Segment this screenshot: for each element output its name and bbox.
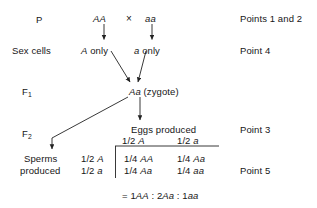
egg-column-header-2: 1/2 a	[177, 135, 199, 146]
monohybrid-cross-figure: P AA × aa Points 1 and 2 Sex cells A onl…	[0, 0, 317, 208]
punnett-cell-r2c2: 1/4 aa	[177, 165, 204, 176]
egg-column-1-allele: A	[138, 135, 144, 146]
ratio-term1-genotype: AA	[136, 190, 149, 201]
egg-column-2-allele: a	[193, 135, 198, 146]
ratio-term3-genotype: aa	[188, 190, 199, 201]
punnett-cell-r1c2-genotype: Aa	[193, 153, 205, 164]
sperms-produced-line2: produced	[20, 165, 60, 176]
arrow-gamete-A-to-zygote	[111, 51, 130, 82]
zygote-suffix: (zygote)	[141, 86, 179, 97]
egg-column-header-1: 1/2 A	[122, 135, 145, 146]
diagram-vector-layer	[0, 0, 317, 208]
zygote-label: Aa (zygote)	[129, 86, 179, 97]
sperm-row-1-fraction: 1/2	[81, 153, 97, 164]
annotation-points-1-and-2: Points 1 and 2	[240, 13, 302, 24]
eggs-produced-header: Eggs produced	[131, 124, 196, 135]
punnett-cell-r1c2-fraction: 1/4	[177, 153, 193, 164]
sperm-row-1-allele: A	[97, 153, 103, 164]
genotypic-ratio: = 1AA : 2Aa : 1aa	[122, 190, 198, 201]
punnett-cell-r1c1-genotype: AA	[140, 153, 153, 164]
gamete-right: a only	[134, 45, 160, 56]
annotation-point-4: Point 4	[240, 45, 270, 56]
parent-genotype-right: aa	[145, 13, 156, 24]
sperm-row-header-1: 1/2 A	[81, 153, 104, 164]
row-label-sex-cells: Sex cells	[12, 45, 51, 56]
row-label-f1-subscript: 1	[28, 91, 32, 98]
punnett-cell-r2c2-genotype: aa	[193, 165, 204, 176]
sperm-row-2-allele: a	[97, 165, 102, 176]
ratio-separator-1: :	[149, 190, 157, 201]
row-label-f1: F1	[22, 86, 32, 98]
gamete-left: A only	[81, 45, 108, 56]
ratio-term2-genotype: Aa	[162, 190, 174, 201]
punnett-cell-r2c2-fraction: 1/4	[177, 165, 193, 176]
arrow-zygote-to-sperms	[52, 97, 128, 149]
punnett-cell-r2c1-genotype: Aa	[140, 165, 152, 176]
sperms-produced-line1: Sperms	[24, 153, 57, 164]
punnett-cell-r1c2: 1/4 Aa	[177, 153, 205, 164]
row-label-f2: F2	[22, 128, 32, 140]
egg-column-1-fraction: 1/2	[122, 135, 138, 146]
row-label-f2-subscript: 2	[28, 133, 32, 140]
annotation-point-5: Point 5	[240, 165, 270, 176]
row-label-p: P	[36, 14, 42, 25]
cross-symbol: ×	[126, 13, 132, 24]
sperm-row-2-fraction: 1/2	[81, 165, 97, 176]
gamete-right-suffix: only	[139, 45, 160, 56]
punnett-cell-r2c1-fraction: 1/4	[124, 165, 140, 176]
annotation-point-3: Point 3	[240, 124, 270, 135]
parent-genotype-left: AA	[93, 13, 106, 24]
zygote-genotype: Aa	[129, 86, 141, 97]
egg-column-2-fraction: 1/2	[177, 135, 193, 146]
gamete-left-suffix: only	[87, 45, 108, 56]
punnett-cell-r2c1: 1/4 Aa	[124, 165, 152, 176]
punnett-cell-r1c1: 1/4 AA	[124, 153, 153, 164]
sperm-row-header-2: 1/2 a	[81, 165, 103, 176]
punnett-cell-r1c1-fraction: 1/4	[124, 153, 140, 164]
